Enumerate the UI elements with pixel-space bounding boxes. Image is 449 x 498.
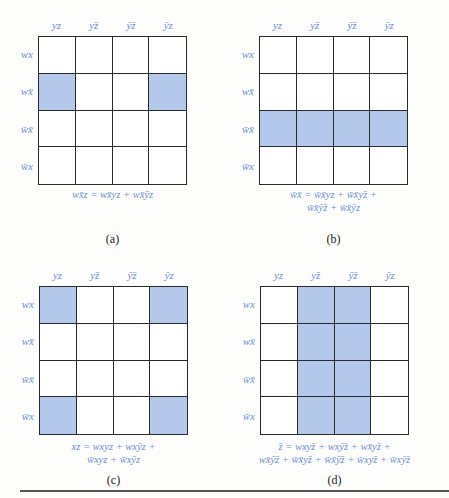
kmap-cell — [76, 74, 113, 111]
kmap-cell — [261, 324, 298, 361]
kmap-cell — [76, 147, 113, 184]
row-label: w̄x̄ — [229, 373, 255, 385]
kmap-cell — [113, 111, 150, 148]
kmap-cell — [260, 147, 297, 184]
row-label: w̄x̄ — [8, 373, 34, 385]
kmap-cell — [114, 287, 151, 324]
row-label: wx — [7, 48, 33, 60]
kmap-cell-highlighted — [335, 397, 372, 434]
kmap-cell — [261, 361, 298, 398]
kmap-cell-highlighted — [335, 361, 372, 398]
column-label: yz̄ — [75, 19, 112, 31]
row-label: wx — [228, 48, 254, 60]
row-label: w̄x — [8, 410, 34, 422]
column-label: ȳz — [372, 269, 409, 281]
caption-d: (d) — [315, 473, 355, 488]
kmap-cell — [77, 324, 114, 361]
kmap-cell — [371, 361, 408, 398]
kmap-grid-d — [260, 286, 409, 435]
kmap-cell — [371, 287, 408, 324]
column-label: yz̄ — [296, 19, 333, 31]
kmap-cell — [39, 111, 76, 148]
kmap-cell — [114, 397, 151, 434]
formula-line: z̄ = wxyz̄ + wxȳz̄ + wx̄yz̄ + — [220, 440, 449, 453]
row-label: w̄x̄ — [7, 123, 33, 135]
kmap-cell-highlighted — [150, 397, 187, 434]
kmap-cell-highlighted — [150, 287, 187, 324]
column-label: yz — [38, 19, 75, 31]
kmap-cell — [39, 37, 76, 74]
kmap-cell — [297, 147, 334, 184]
column-label: ȳz — [151, 269, 188, 281]
column-label: yz̄ — [76, 269, 113, 281]
column-label: yz̄ — [297, 269, 334, 281]
formula-d: z̄ = wxyz̄ + wxȳz̄ + wx̄yz̄ +wx̄ȳz̄ + w̄… — [220, 440, 449, 466]
row-label: w̄x — [7, 160, 33, 172]
kmap-cell — [150, 361, 187, 398]
kmap-cell — [334, 147, 371, 184]
kmap-cell — [113, 147, 150, 184]
bottom-rule — [20, 490, 449, 492]
kmap-cell — [40, 361, 77, 398]
formula-line: w̄x̄ȳz̄ + w̄x̄ȳz — [219, 201, 448, 214]
row-label: wx̄ — [7, 85, 33, 97]
kmap-cell — [114, 361, 151, 398]
kmap-cell-highlighted — [335, 324, 372, 361]
formula-c: xz = wxyz + wxȳz +w̄xyz + w̄xȳz — [0, 440, 228, 466]
kmap-cell-highlighted — [298, 324, 335, 361]
kmap-cell-highlighted — [39, 74, 76, 111]
column-label: yz — [260, 269, 297, 281]
kmap-cell — [40, 324, 77, 361]
kmap-cell — [39, 147, 76, 184]
kmap-cell — [113, 74, 150, 111]
caption-c: (c) — [94, 473, 134, 488]
kmap-cell — [261, 397, 298, 434]
caption-a: (a) — [93, 232, 133, 247]
kmap-cell-highlighted — [298, 287, 335, 324]
row-label: wx — [8, 298, 34, 310]
kmap-cell — [77, 361, 114, 398]
kmap-cell — [149, 147, 186, 184]
kmap-cell-highlighted — [297, 111, 334, 148]
kmap-cell — [370, 37, 407, 74]
kmap-grid-c — [39, 286, 188, 435]
row-label: w̄x — [229, 410, 255, 422]
kmap-cell — [77, 287, 114, 324]
kmap-cell-highlighted — [335, 287, 372, 324]
kmap-cell — [297, 37, 334, 74]
formula-line: w̄xyz + w̄xȳz — [0, 453, 228, 466]
kmap-grid-b — [259, 36, 408, 185]
kmap-cell-highlighted — [370, 111, 407, 148]
formula-line: w̄x̄ = w̄x̄yz + w̄x̄yz̄ + — [219, 188, 448, 201]
formula-line: wx̄z = wx̄yz + wx̄ȳz — [0, 188, 227, 201]
kmap-cell — [149, 37, 186, 74]
kmap-cell — [260, 74, 297, 111]
kmap-cell — [114, 324, 151, 361]
kmap-cell-highlighted — [40, 287, 77, 324]
kmap-cell-highlighted — [298, 361, 335, 398]
column-label: ȳz̄ — [334, 19, 371, 31]
kmap-cell — [371, 397, 408, 434]
row-label: wx̄ — [8, 335, 34, 347]
column-label: ȳz — [150, 19, 187, 31]
kmap-cell — [77, 397, 114, 434]
column-label: ȳz̄ — [113, 19, 150, 31]
kmap-cell-highlighted — [334, 111, 371, 148]
row-label: w̄x̄ — [228, 123, 254, 135]
kmap-cell — [370, 74, 407, 111]
kmap-cell — [334, 74, 371, 111]
row-label: wx̄ — [228, 85, 254, 97]
caption-b: (b) — [314, 232, 354, 247]
formula-line: wx̄ȳz̄ + w̄x̄yz̄ + w̄x̄ȳz̄ + w̄xyz̄ + w̄… — [220, 453, 449, 466]
formula-b: w̄x̄ = w̄x̄yz + w̄x̄yz̄ +w̄x̄ȳz̄ + w̄x̄ȳ… — [219, 188, 448, 214]
kmap-cell — [149, 111, 186, 148]
row-label: wx — [229, 298, 255, 310]
column-label: ȳz̄ — [114, 269, 151, 281]
kmap-cell — [371, 324, 408, 361]
column-label: ȳz — [371, 19, 408, 31]
column-label: ȳz̄ — [335, 269, 372, 281]
kmap-cell — [261, 287, 298, 324]
kmap-cell — [334, 37, 371, 74]
kmap-cell — [150, 324, 187, 361]
column-label: yz — [259, 19, 296, 31]
